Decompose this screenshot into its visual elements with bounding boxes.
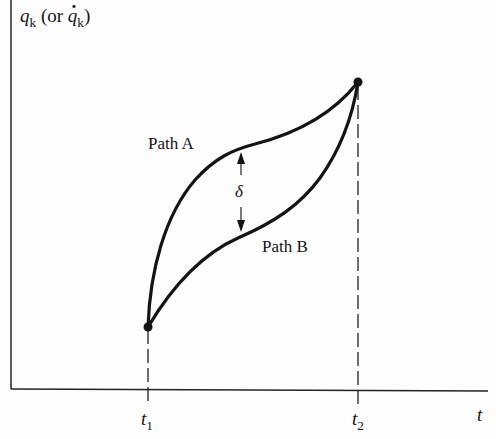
delta-arrow-up-icon xyxy=(237,152,245,164)
delta-symbol: δ xyxy=(235,182,243,202)
x-axis-label: t xyxy=(477,404,482,426)
tick-t1: t1 xyxy=(141,408,153,434)
path-a-label: Path A xyxy=(148,134,194,154)
y-label-sub: k xyxy=(30,15,37,30)
y-axis-label: qk (or q·k) xyxy=(20,5,90,31)
delta-arrow-down-icon xyxy=(237,220,245,232)
y-label-main: q xyxy=(20,5,30,26)
tick-t2-sub: 2 xyxy=(357,418,364,433)
y-label-paren-open: (or xyxy=(41,5,68,26)
y-label-dot-sub: k xyxy=(77,15,84,30)
y-label-dot-q: q· xyxy=(68,5,78,26)
start-point xyxy=(144,323,153,332)
x-axis xyxy=(11,389,488,391)
diagram-canvas xyxy=(0,0,496,439)
path-b-label: Path B xyxy=(262,237,308,257)
tick-t2: t2 xyxy=(352,408,364,434)
path-a-curve xyxy=(148,82,358,327)
end-point xyxy=(354,78,363,87)
y-label-paren-close: ) xyxy=(84,5,90,26)
tick-t1-sub: 1 xyxy=(146,418,153,433)
